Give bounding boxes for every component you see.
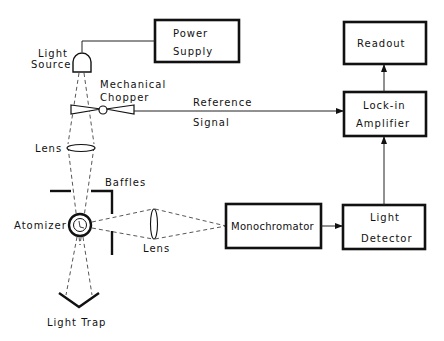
chopper-label-2: Chopper bbox=[100, 92, 149, 103]
power-wire bbox=[82, 41, 155, 52]
light-source-label-2: Source bbox=[31, 59, 71, 70]
light-trap-icon bbox=[59, 293, 99, 307]
lens-side-icon bbox=[151, 209, 158, 239]
diagram-canvas: Power Supply Light Source Mechanical Cho… bbox=[0, 0, 444, 341]
light-trap-label: Light Trap bbox=[47, 317, 106, 328]
readout-block: Readout bbox=[344, 22, 426, 64]
power-supply-label-1: Power bbox=[173, 28, 208, 39]
lock-in-label-2: Amplifier bbox=[356, 118, 410, 129]
fluor-beam-top-2 bbox=[155, 209, 226, 226]
reference-label: Reference bbox=[193, 97, 252, 108]
baffles-label: Baffles bbox=[105, 177, 146, 188]
light-detector-label-1: Light bbox=[370, 212, 400, 223]
signal-label: Signal bbox=[193, 117, 230, 128]
lock-in-label-1: Lock-in bbox=[363, 100, 406, 111]
chopper-icon bbox=[71, 105, 134, 114]
lock-in-amplifier-block: Lock-in Amplifier bbox=[344, 92, 426, 136]
power-supply-label-2: Supply bbox=[173, 46, 213, 57]
trap-beam-left bbox=[66, 237, 77, 295]
trap-beam-right bbox=[83, 237, 92, 295]
light-detector-label-2: Detector bbox=[361, 233, 413, 244]
light-source-label-1: Light bbox=[38, 48, 68, 59]
atomizer-icon bbox=[69, 214, 91, 236]
chopper-label-1: Mechanical bbox=[100, 79, 166, 90]
readout-label: Readout bbox=[357, 38, 406, 49]
monochromator-block: Monochromator bbox=[226, 204, 321, 248]
power-supply-block: Power Supply bbox=[155, 20, 239, 62]
light-source-icon bbox=[73, 53, 91, 72]
fluor-beam-top-1 bbox=[92, 209, 153, 222]
lens-side-label: Lens bbox=[143, 243, 170, 254]
fluor-beam-bot-1 bbox=[92, 228, 153, 239]
light-detector-block: Light Detector bbox=[343, 205, 425, 249]
fluor-beam-bot-2 bbox=[155, 226, 226, 239]
lens-top-icon bbox=[67, 145, 95, 152]
atomizer-label: Atomizer bbox=[14, 220, 67, 231]
monochromator-label: Monochromator bbox=[231, 221, 315, 232]
lens-top-label: Lens bbox=[35, 143, 62, 154]
